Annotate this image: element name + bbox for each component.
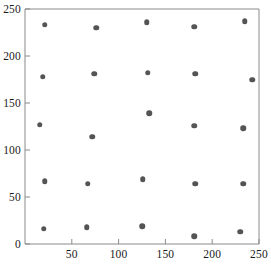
x-axis-tick-label: 100 — [110, 248, 128, 260]
y-axis-tick-label: 150 — [3, 97, 21, 109]
chart-axes — [0, 0, 271, 276]
scatter-chart-figure: 05010015020025050100150200250 — [0, 0, 271, 276]
y-axis-tick-label: 0 — [15, 238, 21, 250]
data-point — [192, 24, 198, 30]
data-point — [240, 126, 246, 132]
data-point — [193, 181, 199, 187]
data-point — [238, 229, 244, 235]
data-point — [147, 111, 153, 117]
data-point — [240, 181, 246, 187]
data-point — [250, 77, 256, 83]
data-point — [93, 25, 99, 31]
data-point — [42, 22, 48, 28]
data-point — [42, 178, 48, 184]
data-point — [192, 234, 198, 240]
data-point — [37, 122, 43, 128]
y-axis-tick-label: 250 — [3, 3, 21, 15]
data-point — [145, 70, 151, 76]
x-axis-tick-label: 150 — [156, 248, 174, 260]
data-point — [192, 123, 198, 129]
data-point — [140, 176, 146, 182]
x-axis-tick-label: 50 — [66, 248, 78, 260]
data-point — [193, 71, 199, 77]
y-axis-tick-label: 50 — [9, 191, 21, 203]
data-point — [242, 18, 248, 24]
x-axis-tick-label: 250 — [250, 248, 268, 260]
data-point — [144, 19, 150, 25]
data-point — [40, 74, 46, 80]
data-point — [139, 223, 145, 229]
data-point — [85, 181, 91, 187]
plot-area: 05010015020025050100150200250 — [0, 0, 271, 276]
y-axis-tick-label: 200 — [3, 50, 21, 62]
data-point — [41, 226, 47, 232]
data-point — [84, 224, 90, 230]
data-point — [92, 71, 98, 77]
y-axis-tick-label: 100 — [3, 144, 21, 156]
data-point — [90, 134, 96, 140]
x-axis-tick-label: 200 — [203, 248, 221, 260]
